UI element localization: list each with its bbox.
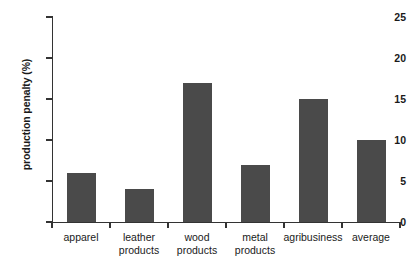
plot-area — [52, 17, 400, 222]
x-tick-label: average — [336, 231, 406, 244]
x-tick-mark — [341, 222, 342, 228]
x-tick-mark — [167, 222, 168, 228]
bar — [299, 99, 328, 222]
x-label-line: products — [220, 244, 290, 257]
bar — [241, 165, 270, 222]
bar — [125, 189, 154, 222]
x-tick-mark — [399, 222, 400, 228]
bar — [183, 83, 212, 222]
x-tick-mark — [283, 222, 284, 228]
bar-chart: production penalty (%) 0510152025 appare… — [0, 0, 415, 261]
bar — [357, 140, 386, 222]
x-tick-mark — [225, 222, 226, 228]
bar — [67, 173, 96, 222]
y-axis-title: production penalty (%) — [18, 7, 34, 222]
x-tick-mark — [109, 222, 110, 228]
x-label-line: average — [336, 231, 406, 244]
x-tick-mark — [51, 222, 52, 228]
